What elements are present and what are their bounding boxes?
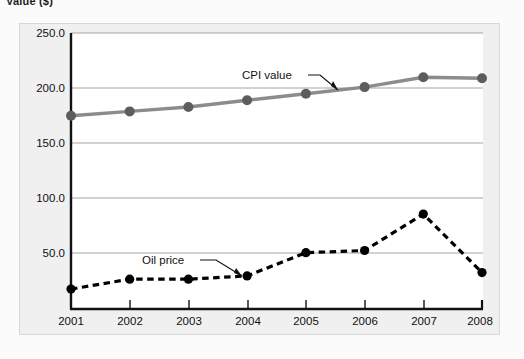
data-point <box>360 82 370 92</box>
data-point <box>242 95 252 105</box>
x-tick-label: 2002 <box>117 315 143 327</box>
data-point <box>477 268 486 277</box>
data-point <box>66 111 76 121</box>
data-point <box>243 271 252 280</box>
data-point <box>301 89 311 99</box>
x-tick-label: 2006 <box>352 315 378 327</box>
data-point <box>183 102 193 112</box>
y-tick-label: 150.0 <box>36 137 65 149</box>
x-tick-label: 2008 <box>467 315 493 327</box>
y-tick-label: 50.0 <box>43 247 65 259</box>
y-axis-caption: Value ($) <box>6 0 53 7</box>
chart-figure: Value ($) <box>0 0 524 359</box>
x-tick-label: 2007 <box>411 315 437 327</box>
x-tick-label: 2001 <box>58 315 84 327</box>
data-point <box>419 210 428 219</box>
x-tick-label: 2003 <box>176 315 202 327</box>
data-point <box>125 275 134 284</box>
data-point <box>418 72 428 82</box>
annotation-label-cpi: CPI value <box>242 69 292 81</box>
data-point <box>66 285 75 294</box>
data-point <box>301 248 310 257</box>
y-tick-label: 250.0 <box>36 27 65 39</box>
data-point <box>125 106 135 116</box>
chart-plot: 250.0 200.0 150.0 100.0 50.0 2001 2002 2… <box>20 24 497 332</box>
x-tick-label: 2004 <box>235 315 261 327</box>
annotation-label-oil: Oil price <box>142 254 184 266</box>
y-tick-label: 100.0 <box>36 192 65 204</box>
data-point <box>360 246 369 255</box>
data-point <box>184 275 193 284</box>
data-point <box>477 73 487 83</box>
x-tick-label: 2005 <box>293 315 319 327</box>
chart-panel: 250.0 200.0 150.0 100.0 50.0 2001 2002 2… <box>19 23 500 335</box>
y-tick-label: 200.0 <box>36 82 65 94</box>
